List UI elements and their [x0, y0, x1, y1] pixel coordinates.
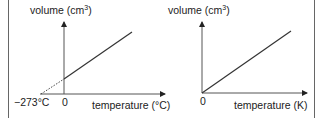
left-tick-neg273: −273°C: [14, 97, 49, 108]
left-tick-zero: 0: [62, 97, 68, 108]
left-y-label-close: ): [88, 4, 92, 16]
right-y-label: volume (cm3): [168, 4, 230, 16]
left-y-label-text: volume (cm: [30, 4, 84, 16]
right-x-label: temperature (K): [234, 100, 308, 111]
left-x-label: temperature (°C): [92, 100, 170, 111]
right-y-label-text: volume (cm: [168, 4, 222, 16]
celsius-graph: [40, 22, 165, 94]
right-data-line: [202, 31, 291, 93]
right-tick-zero: 0: [200, 96, 206, 107]
right-y-label-close: ): [226, 4, 230, 16]
kelvin-graph: [202, 22, 307, 93]
left-data-line: [64, 32, 132, 79]
left-dotted-extrapolation: [41, 79, 64, 94]
left-y-label: volume (cm3): [30, 4, 92, 16]
